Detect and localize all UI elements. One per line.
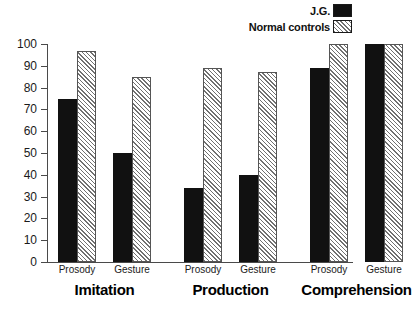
y-tick-mark (41, 153, 48, 154)
bar-normal-controls (258, 72, 277, 262)
y-tick-label: 70 (24, 103, 37, 115)
group-label-production: Production (161, 281, 301, 299)
y-tick-mark (41, 109, 48, 110)
group-label-comprehension: Comprehension (287, 281, 416, 299)
legend-item-jg: J.G. (310, 4, 352, 17)
bar-series-container (48, 44, 353, 262)
y-tick-label: 20 (24, 212, 37, 224)
sub-label-gesture: Gesture (344, 264, 416, 276)
y-tick-mark (41, 197, 48, 198)
legend-item-normal-controls: Normal controls (249, 20, 352, 33)
bar-jg (239, 175, 258, 262)
bar-jg (310, 68, 329, 262)
y-tick-mark (41, 44, 48, 45)
sub-label-gesture: Gesture (218, 264, 298, 276)
y-tick-mark (41, 175, 48, 176)
y-tick-mark (41, 240, 48, 241)
y-tick-mark (41, 66, 48, 67)
y-tick-label: 100 (17, 38, 37, 50)
bar-normal-controls (384, 44, 403, 262)
plot-area: 0102030405060708090100 (0, 44, 360, 274)
y-tick-mark (41, 88, 48, 89)
y-tick-label: 80 (24, 82, 37, 94)
legend-label-jg: J.G. (310, 5, 330, 17)
legend-swatch-hatch-icon (333, 20, 352, 33)
legend-label-normal-controls: Normal controls (249, 21, 330, 33)
y-tick-mark (41, 262, 48, 263)
x-axis-group-labels: ImitationProductionComprehension (48, 281, 353, 303)
bar-jg (113, 153, 132, 262)
y-tick-label: 10 (24, 234, 37, 246)
bar-jg (184, 188, 203, 262)
sub-label-gesture: Gesture (92, 264, 172, 276)
x-axis-sub-labels: ProsodyGestureProsodyGestureProsodyGestu… (48, 264, 353, 280)
y-tick-label: 60 (24, 125, 37, 137)
bar-jg (58, 99, 77, 263)
y-tick-mark (41, 218, 48, 219)
bar-normal-controls (203, 68, 222, 262)
chart-legend: J.G. Normal controls (249, 4, 352, 33)
y-tick-label: 50 (24, 147, 37, 159)
y-tick-mark (41, 131, 48, 132)
bar-normal-controls (329, 44, 348, 262)
bar-normal-controls (132, 77, 151, 262)
y-tick-label: 40 (24, 169, 37, 181)
y-tick-label: 90 (24, 60, 37, 72)
x-axis-line (47, 262, 353, 263)
y-tick-label: 30 (24, 191, 37, 203)
group-label-imitation: Imitation (35, 281, 175, 299)
legend-swatch-solid-icon (333, 4, 352, 17)
bar-normal-controls (77, 51, 96, 262)
y-tick-label: 0 (30, 256, 37, 268)
bar-jg (365, 44, 384, 262)
